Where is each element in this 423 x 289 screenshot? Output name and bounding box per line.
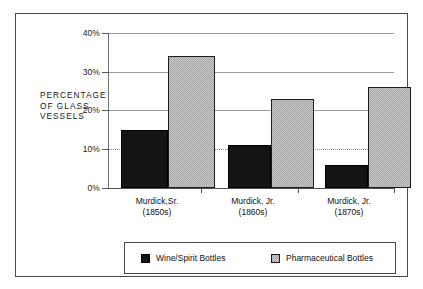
figure-frame: 40% 30% 20% 10% 0% PERCENTAGE OF GLASS V… xyxy=(15,13,408,277)
y-axis-title: PERCENTAGE OF GLASS VESSELS xyxy=(40,90,124,122)
chart-legend: Wine/Spirit Bottles Pharmaceutical Bottl… xyxy=(124,242,396,274)
bar-pharma-1850s xyxy=(168,56,215,188)
y-tick-mark-40 xyxy=(102,33,109,34)
y-axis-title-line-2: OF GLASS xyxy=(40,101,124,112)
plot-area xyxy=(109,33,394,188)
category-label-1860s: Murdick, Jr. (1860s) xyxy=(207,196,299,218)
category-period-1850s: (1850s) xyxy=(109,207,205,218)
y-tick-label-30: 30% xyxy=(54,67,100,77)
y-tick-label-40: 40% xyxy=(54,28,100,38)
y-axis-tick-labels: 40% 30% 20% 10% 0% xyxy=(48,14,100,289)
bar-pharma-1870s xyxy=(368,87,411,188)
bar-wine-1870s xyxy=(325,165,368,188)
y-axis-title-line-3: VESSELS xyxy=(40,111,124,122)
bar-wine-1860s xyxy=(228,145,271,188)
y-tick-mark-10 xyxy=(102,149,109,150)
gridline-20 xyxy=(109,110,394,111)
x-tick-axis-end xyxy=(394,188,395,193)
gridline-40 xyxy=(109,33,394,34)
y-tick-label-10: 10% xyxy=(54,144,100,154)
pharma-swatch-icon xyxy=(271,254,280,263)
y-axis-title-line-1: PERCENTAGE xyxy=(40,90,124,101)
y-tick-label-0: 0% xyxy=(54,183,100,193)
legend-label-pharma: Pharmaceutical Bottles xyxy=(286,253,373,263)
wine-swatch-icon xyxy=(141,254,150,263)
y-tick-mark-30 xyxy=(102,72,109,73)
category-name-1850s: Murdick,Sr. xyxy=(136,196,179,206)
category-period-1860s: (1860s) xyxy=(207,207,299,218)
category-label-1870s: Murdick, Jr. (1870s) xyxy=(303,196,395,218)
bar-wine-1850s xyxy=(121,130,168,188)
bar-pharma-1860s xyxy=(271,99,314,188)
x-tick-group-sep-2 xyxy=(298,188,299,193)
gridline-30 xyxy=(109,72,394,73)
category-label-1850s: Murdick,Sr. (1850s) xyxy=(109,196,205,218)
legend-item-wine: Wine/Spirit Bottles xyxy=(141,253,225,263)
legend-label-wine: Wine/Spirit Bottles xyxy=(156,253,225,263)
x-tick-group-sep-1 xyxy=(201,188,202,193)
x-axis-line xyxy=(108,188,395,189)
y-tick-mark-0 xyxy=(102,188,109,189)
category-name-1860s: Murdick, Jr. xyxy=(231,196,274,206)
legend-item-pharma: Pharmaceutical Bottles xyxy=(271,253,373,263)
category-period-1870s: (1870s) xyxy=(303,207,395,218)
category-name-1870s: Murdick, Jr. xyxy=(327,196,370,206)
